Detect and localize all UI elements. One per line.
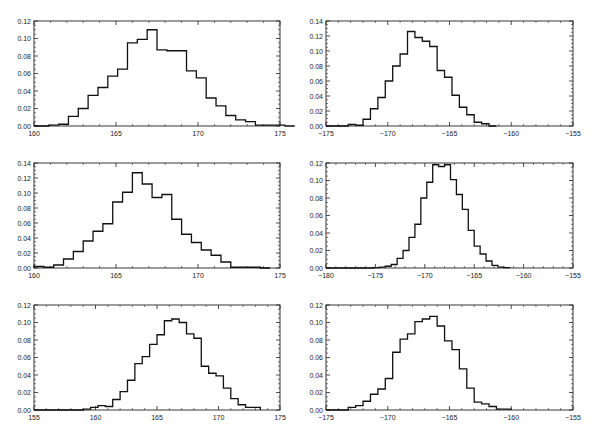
y-tick-label: 0.06 [17, 220, 31, 227]
x-tick-label: 160 [28, 130, 40, 137]
y-tick-label: 0.12 [17, 302, 31, 309]
y-tick-label: 0.04 [309, 230, 323, 237]
histogram-panel-top-left: 0.000.020.040.060.080.100.12160165170175 [17, 18, 294, 138]
y-tick-label: 0.08 [309, 195, 323, 202]
histogram-step-line [34, 319, 260, 410]
x-tick-label: −160 [503, 414, 519, 421]
x-tick-label: −165 [442, 130, 458, 137]
x-tick-label: 170 [213, 414, 225, 421]
x-tick-label: −165 [466, 272, 482, 279]
y-tick-label: 0.10 [17, 35, 31, 42]
x-tick-label: 175 [274, 130, 286, 137]
histogram-step-line [326, 165, 510, 268]
y-tick-label: 0.12 [309, 302, 323, 309]
y-tick-label: 0.12 [17, 18, 31, 25]
y-tick-label: 0.08 [17, 205, 31, 212]
y-tick-label: 0.02 [309, 389, 323, 396]
histogram-step-line [34, 30, 295, 126]
histogram-panel-middle-left: 0.000.020.040.060.080.100.120.1416016517… [17, 160, 286, 280]
x-tick-label: 165 [110, 130, 122, 137]
y-tick-label: 0.08 [309, 63, 323, 70]
y-tick-label: 0.04 [309, 372, 323, 379]
y-tick-label: 0.06 [309, 78, 323, 85]
histogram-panel-top-right: 0.000.020.040.060.080.100.120.14−175−170… [309, 18, 581, 138]
x-tick-label: 160 [28, 272, 40, 279]
y-tick-label: 0.04 [17, 235, 31, 242]
y-tick-label: 0.10 [309, 319, 323, 326]
x-tick-label: −155 [565, 414, 581, 421]
y-tick-label: 0.06 [309, 354, 323, 361]
y-tick-label: 0.12 [17, 175, 31, 182]
y-tick-label: 0.02 [17, 389, 31, 396]
y-tick-label: 0.00 [17, 265, 31, 272]
x-tick-label: 165 [110, 272, 122, 279]
y-tick-label: 0.10 [17, 319, 31, 326]
x-tick-label: −175 [318, 414, 334, 421]
y-tick-label: 0.06 [309, 212, 323, 219]
y-tick-label: 0.00 [17, 123, 31, 130]
x-tick-label: 165 [151, 414, 163, 421]
y-tick-label: 0.08 [17, 337, 31, 344]
y-tick-label: 0.02 [17, 105, 31, 112]
x-tick-label: 160 [90, 414, 102, 421]
x-tick-label: −180 [318, 272, 334, 279]
y-tick-label: 0.14 [17, 160, 31, 167]
plot-frame [34, 305, 280, 410]
histogram-panel-bottom-right: 0.000.020.040.060.080.100.12−175−170−165… [309, 302, 581, 422]
x-tick-label: −170 [380, 130, 396, 137]
y-tick-label: 0.00 [309, 407, 323, 414]
x-tick-label: 175 [274, 414, 286, 421]
figure-canvas: 0.000.020.040.060.080.100.12160165170175… [0, 0, 595, 443]
x-tick-label: −155 [565, 272, 581, 279]
y-tick-label: 0.08 [309, 337, 323, 344]
y-tick-label: 0.02 [309, 108, 323, 115]
y-tick-label: 0.02 [309, 247, 323, 254]
y-tick-label: 0.10 [17, 190, 31, 197]
y-tick-label: 0.06 [17, 70, 31, 77]
y-tick-label: 0.10 [309, 48, 323, 55]
x-tick-label: −160 [503, 130, 519, 137]
x-tick-label: −170 [417, 272, 433, 279]
y-tick-label: 0.08 [17, 53, 31, 60]
y-tick-label: 0.00 [17, 407, 31, 414]
plot-frame [326, 305, 573, 410]
x-tick-label: 155 [28, 414, 40, 421]
x-tick-label: −155 [565, 130, 581, 137]
histogram-step-line [34, 173, 270, 268]
y-tick-label: 0.04 [17, 88, 31, 95]
y-tick-label: 0.02 [17, 250, 31, 257]
x-tick-label: 170 [192, 272, 204, 279]
x-tick-label: −165 [442, 414, 458, 421]
x-tick-label: 175 [274, 272, 286, 279]
histogram-step-line [326, 316, 511, 410]
y-tick-label: 0.14 [309, 18, 323, 25]
histogram-panel-bottom-left: 0.000.020.040.060.080.100.12155160165170… [17, 302, 286, 422]
y-tick-label: 0.00 [309, 123, 323, 130]
plot-frame [326, 21, 573, 126]
x-tick-label: −175 [368, 272, 384, 279]
y-tick-label: 0.06 [17, 354, 31, 361]
plot-frame [326, 163, 573, 268]
y-tick-label: 0.00 [309, 265, 323, 272]
y-tick-label: 0.04 [17, 372, 31, 379]
y-tick-label: 0.10 [309, 177, 323, 184]
y-tick-label: 0.04 [309, 93, 323, 100]
histogram-step-line [326, 32, 496, 127]
plot-frame [34, 163, 280, 268]
histogram-panel-middle-right: 0.000.020.040.060.080.100.12−180−175−170… [309, 160, 581, 280]
y-tick-label: 0.12 [309, 33, 323, 40]
x-tick-label: −175 [318, 130, 334, 137]
x-tick-label: −160 [516, 272, 532, 279]
histogram-grid-figure: 0.000.020.040.060.080.100.12160165170175… [0, 0, 595, 443]
x-tick-label: 170 [192, 130, 204, 137]
y-tick-label: 0.12 [309, 160, 323, 167]
x-tick-label: −170 [380, 414, 396, 421]
